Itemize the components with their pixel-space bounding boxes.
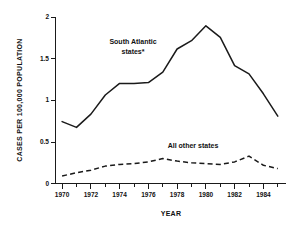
chart-figure: 0 0.5 1 1.5 2 (0, 0, 300, 228)
y-axis-title: CASES PER 100,000 POPULATION (16, 38, 24, 161)
x-tick-label-4: 1978 (170, 191, 185, 198)
x-tick-label-7: 1984 (256, 191, 271, 198)
x-axis-title: YEAR (161, 210, 182, 217)
y-tick-label-2: 1 (45, 96, 49, 103)
x-tick-label-0: 1970 (55, 191, 70, 198)
annotation-all-other-line1: All other states (168, 142, 219, 149)
x-tick-label-5: 1980 (199, 191, 214, 198)
x-tick-label-1: 1972 (84, 191, 99, 198)
annotation-all-other-states: All other states (168, 142, 219, 149)
series-line-south-atlantic-states (62, 26, 278, 128)
y-tick-label-4: 2 (45, 13, 49, 20)
x-tick-label-2: 1974 (112, 191, 127, 198)
x-axis-tick-labels: 1970 1972 1974 1976 1978 1980 1982 1984 (55, 191, 271, 198)
x-tick-label-3: 1976 (141, 191, 156, 198)
annotation-south-atlantic-line2: states* (122, 48, 145, 55)
y-tick-label-1: 0.5 (40, 138, 49, 145)
annotation-south-atlantic-line1: South Atlantic (109, 38, 156, 45)
y-axis-tick-labels: 0 0.5 1 1.5 2 (40, 13, 49, 187)
y-tick-label-3: 1.5 (40, 55, 49, 62)
line-chart-canvas: 0 0.5 1 1.5 2 (0, 0, 300, 228)
y-tick-label-0: 0 (45, 180, 49, 187)
series-line-all-other-states (62, 156, 278, 176)
y-axis-ticks (51, 17, 56, 184)
annotation-south-atlantic-states: South Atlantic states* (109, 38, 156, 55)
x-tick-label-6: 1982 (227, 191, 242, 198)
